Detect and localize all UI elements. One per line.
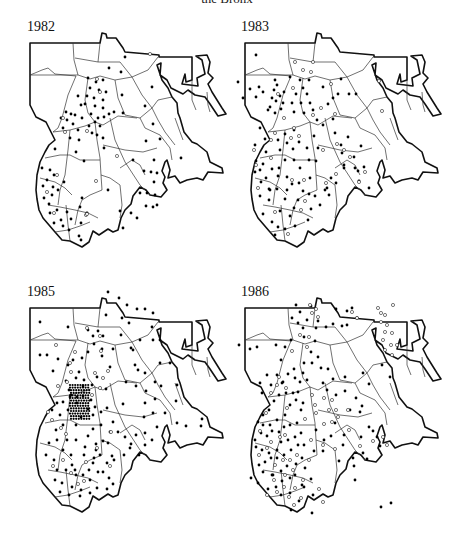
filled-dot [88,415,90,417]
filled-dot [266,435,269,438]
filled-dot [96,376,99,379]
filled-dot [78,392,80,394]
hollow-dot [283,473,286,476]
filled-dot [75,151,78,154]
filled-dot [151,439,154,442]
filled-dot [87,397,89,399]
hollow-dot [363,170,366,173]
filled-dot [372,430,375,433]
hollow-dot [292,503,295,506]
filled-dot [39,354,42,357]
hollow-dot [314,307,317,310]
filled-dot [136,308,139,311]
filled-dot [54,148,57,151]
filled-dot [276,449,279,452]
filled-dot [72,123,75,126]
filled-dot [284,159,287,162]
filled-dot [311,512,314,515]
filled-dot [145,390,148,393]
filled-dot [255,54,258,57]
hollow-dot [379,311,382,314]
filled-dot [72,397,74,399]
filled-dot [59,491,62,494]
filled-dot [284,198,287,201]
filled-dot [284,414,287,417]
filled-dot [75,474,78,477]
filled-dot [86,418,88,420]
map-panel-1985: 1985 [0,265,227,530]
year-label: 1982 [27,19,55,35]
filled-dot [45,454,48,457]
filled-dot [91,132,94,135]
filled-dot [101,355,104,358]
hollow-dot [348,155,351,158]
filled-dot [77,387,79,389]
filled-dot [130,443,133,446]
filled-dot [353,465,356,468]
filled-dot [315,429,318,432]
filled-dot [74,469,77,472]
filled-dot [185,425,188,428]
filled-dot [83,400,85,402]
filled-dot [117,431,120,434]
filled-dot [293,368,296,371]
filled-dot [105,388,108,391]
filled-dot [82,413,84,415]
filled-dot [317,320,320,323]
hollow-dot [342,148,345,151]
filled-dot [75,389,77,391]
filled-dot [63,181,66,184]
filled-dot [80,410,82,412]
filled-dot [278,167,281,170]
filled-dot [78,389,80,391]
filled-dot [73,418,75,420]
filled-dot [103,147,106,150]
filled-dot [78,235,81,238]
filled-dot [96,134,99,137]
filled-dot [89,492,92,495]
filled-dot [313,450,316,453]
borough-outline [30,33,226,247]
filled-dot [304,467,307,470]
filled-dot [284,133,287,136]
filled-dot [102,471,105,474]
filled-dot [144,402,147,405]
filled-dot [309,102,312,105]
filled-dot [287,439,290,442]
filled-dot [103,116,106,119]
hollow-dot [390,331,393,334]
hollow-dot [391,303,394,306]
hollow-dot [109,430,112,433]
filled-dot [83,160,86,163]
filled-dot [299,311,302,314]
filled-dot [260,181,263,184]
filled-dot [87,402,89,404]
hollow-dot [257,453,260,456]
hollow-dot [254,163,257,166]
filled-dot [100,424,103,427]
hollow-dot [310,393,313,396]
filled-dot [102,137,105,140]
filled-dot [343,434,346,437]
filled-dot [90,399,93,402]
filled-dot [293,111,296,114]
filled-dot [126,304,129,307]
filled-dot [355,397,358,400]
hollow-dot [307,335,310,338]
filled-dot [289,404,292,407]
filled-dot [261,449,264,452]
filled-dot [88,418,90,420]
filled-dot [75,415,77,417]
year-label: 1983 [241,19,269,35]
filled-dot [289,76,292,79]
filled-dot [292,148,295,151]
filled-dot [325,326,328,329]
filled-dot [71,464,74,467]
year-label: 1985 [27,284,55,300]
filled-dot [144,444,147,447]
filled-dot [381,364,384,367]
filled-dot [366,458,369,461]
filled-dot [79,402,81,404]
filled-dot [94,406,97,409]
filled-dot [250,477,253,480]
